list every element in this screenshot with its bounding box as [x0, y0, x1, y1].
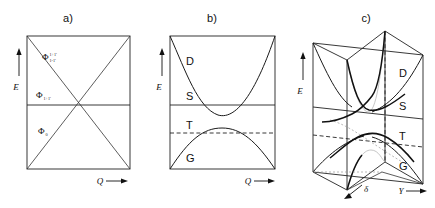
panel-b-upper-parabola: [170, 36, 275, 116]
panel-c-fold-top-left: [313, 43, 347, 60]
figure-canvas: a) E Q Φ 1+1': [0, 0, 435, 208]
panel-c-label-t: T: [399, 130, 406, 142]
panel-b-q-arrow-head: [268, 179, 275, 184]
panel-a-q-arrow-head: [121, 179, 128, 184]
panel-c-delta-axis-stem: [348, 185, 362, 196]
panel-c-e-arrow-head: [300, 52, 305, 59]
panel-a-e-arrow-head: [16, 48, 21, 55]
panel-a-q-axis: Q: [97, 176, 128, 186]
three-panel-energy-diagram: a) E Q Φ 1+1': [0, 0, 435, 208]
panel-c-inner-top: [347, 31, 385, 60]
panel-b-e-arrow-head: [159, 48, 164, 55]
phi-excited-superscript: 1+1': [50, 52, 58, 57]
panel-c-outer-curve-lower-left: [313, 136, 364, 172]
phi-ground-subscript: 0: [46, 132, 48, 137]
phi-excited-base: Φ: [42, 52, 49, 62]
panel-b-title: b): [207, 12, 217, 24]
panel-c-label-s: S: [399, 100, 406, 112]
panel-a-label-phi-middle: Φ 1+1': [36, 90, 51, 101]
panel-b-e-label: E: [155, 82, 162, 92]
panel-c-e-axis: E: [296, 52, 305, 96]
panel-c-label-g: G: [399, 160, 408, 172]
phi-excited-subscript: 1-1': [50, 58, 57, 63]
panel-c-ghost-upper-parabola: [347, 31, 385, 112]
panel-b-label-t: T: [186, 119, 193, 131]
panel-c: c): [296, 12, 427, 199]
panel-c-y-label: Y: [398, 186, 404, 196]
panel-b: b) E Q D: [155, 12, 275, 186]
panel-c-label-d: D: [399, 67, 407, 79]
panel-c-e-label: E: [296, 86, 303, 96]
panel-a: a) E Q Φ 1+1': [12, 12, 130, 186]
panel-c-title: c): [361, 12, 370, 24]
panel-b-label-d: D: [186, 55, 194, 67]
panel-b-label-g: G: [186, 152, 195, 164]
panel-a-title: a): [63, 12, 73, 24]
panel-a-label-phi-ground: Φ 0: [38, 126, 48, 137]
panel-c-fold-bottom-left: [313, 172, 347, 190]
panel-b-e-axis: E: [155, 48, 164, 92]
panel-b-label-s: S: [186, 90, 193, 102]
panel-c-outer-curve-upper-right: [372, 55, 423, 112]
panel-c-y-arrow-head: [420, 189, 427, 194]
phi-middle-subscript: 1+1': [44, 96, 52, 101]
panel-c-delta-label: δ: [364, 184, 369, 194]
phi-ground-base: Φ: [38, 126, 45, 136]
panel-a-e-axis: E: [12, 48, 21, 92]
panel-c-bold-upper-surface: [347, 60, 405, 110]
panel-b-q-label: Q: [245, 176, 252, 186]
phi-middle-base: Φ: [36, 90, 43, 100]
panel-a-q-label: Q: [97, 176, 104, 186]
panel-a-e-label: E: [12, 82, 19, 92]
panel-c-edge-bottom: [313, 172, 423, 184]
panel-b-q-axis: Q: [245, 176, 275, 186]
panel-c-dashed-line: [313, 135, 423, 147]
panel-c-mid-line: [313, 107, 423, 119]
panel-c-y-axis: Y: [398, 186, 427, 196]
panel-a-label-phi-excited: Φ 1+1' 1-1': [42, 52, 57, 63]
